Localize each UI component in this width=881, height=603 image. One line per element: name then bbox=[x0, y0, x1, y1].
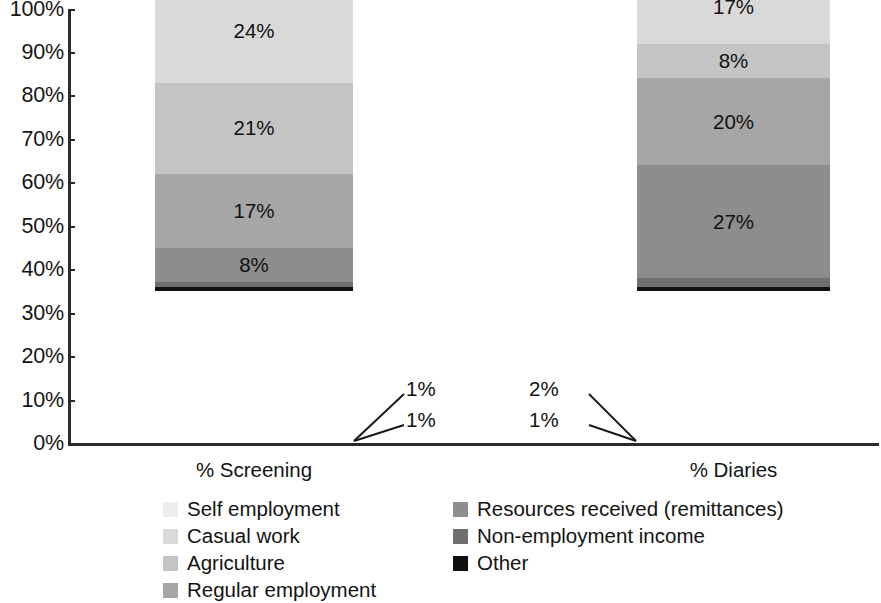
legend-item-other[interactable]: Other bbox=[453, 550, 783, 576]
legend-label: Regular employment bbox=[187, 579, 376, 601]
segment-label: 17% bbox=[637, 0, 830, 17]
legend-column-left: Self employment Casual work Agriculture … bbox=[163, 496, 376, 603]
callout-diaries-upper: 2% bbox=[529, 379, 559, 400]
plot-area: 100% 90% 80% 70% 60% 50% 40% 30% 20% 10%… bbox=[0, 0, 881, 450]
segment-regular-employment[interactable]: 17% bbox=[155, 174, 353, 248]
y-tick-50: 50% bbox=[0, 216, 64, 238]
legend-label: Agriculture bbox=[187, 552, 285, 574]
y-tick-70: 70% bbox=[0, 129, 64, 151]
y-tick-label: 20% bbox=[2, 346, 64, 368]
bar-diaries[interactable]: 26% 17% 8% 20% 27% bbox=[637, 0, 830, 291]
y-axis-ticks: 100% 90% 80% 70% 60% 50% 40% 30% 20% 10%… bbox=[0, 0, 64, 450]
legend-label: Resources received (remittances) bbox=[477, 498, 783, 520]
segment-label: 8% bbox=[155, 255, 353, 276]
y-tick-label: 10% bbox=[2, 390, 64, 412]
y-tick-40: 40% bbox=[0, 259, 64, 281]
y-tick-0: 0% bbox=[0, 433, 64, 455]
segment-label: 17% bbox=[155, 201, 353, 222]
y-tick-90: 90% bbox=[0, 42, 64, 64]
segment-regular-employment[interactable]: 20% bbox=[637, 78, 830, 165]
y-tick-label: 30% bbox=[2, 303, 64, 325]
segment-casual-work[interactable]: 24% bbox=[155, 0, 353, 83]
legend-label: Self employment bbox=[187, 498, 340, 520]
legend-swatch-icon bbox=[163, 529, 178, 544]
segment-resources-received[interactable]: 27% bbox=[637, 165, 830, 278]
y-tick-label: 50% bbox=[2, 216, 64, 238]
stacked-bar-chart: 100% 90% 80% 70% 60% 50% 40% 30% 20% 10%… bbox=[0, 0, 881, 603]
legend-swatch-icon bbox=[453, 556, 468, 571]
callout-screening-upper: 1% bbox=[406, 379, 436, 400]
legend-item-non-employment-income[interactable]: Non-employment income bbox=[453, 523, 783, 549]
y-tick-label: 0% bbox=[2, 433, 64, 455]
y-tick-20: 20% bbox=[0, 346, 64, 368]
y-tick-60: 60% bbox=[0, 172, 64, 194]
segment-label: 21% bbox=[155, 118, 353, 139]
legend-swatch-icon bbox=[163, 583, 178, 598]
legend-column-right: Resources received (remittances) Non-emp… bbox=[453, 496, 783, 577]
segment-agriculture[interactable]: 8% bbox=[637, 44, 830, 79]
segment-agriculture[interactable]: 21% bbox=[155, 83, 353, 174]
segment-other[interactable] bbox=[155, 287, 353, 291]
segment-label: 8% bbox=[637, 51, 830, 72]
legend-item-agriculture[interactable]: Agriculture bbox=[163, 550, 376, 576]
bar-screening[interactable]: 28% 24% 21% 17% 8% bbox=[155, 0, 353, 291]
callout-screening-lower: 1% bbox=[406, 410, 436, 431]
y-tick-label: 40% bbox=[2, 259, 64, 281]
chart-legend: Self employment Casual work Agriculture … bbox=[0, 496, 881, 603]
y-tick-30: 30% bbox=[0, 303, 64, 325]
y-tick-label: 80% bbox=[2, 85, 64, 107]
legend-label: Non-employment income bbox=[477, 525, 705, 547]
legend-swatch-icon bbox=[163, 556, 178, 571]
category-label-screening: % Screening bbox=[155, 459, 353, 481]
y-tick-100: 100% bbox=[0, 0, 64, 21]
y-tick-label: 60% bbox=[2, 172, 64, 194]
segment-label: 20% bbox=[637, 112, 830, 133]
segment-casual-work[interactable]: 17% bbox=[637, 0, 830, 44]
category-label-diaries: % Diaries bbox=[637, 459, 830, 481]
segment-resources-received[interactable]: 8% bbox=[155, 248, 353, 283]
y-axis-line bbox=[68, 10, 71, 445]
segment-other[interactable] bbox=[637, 287, 830, 291]
segment-non-employment-income[interactable] bbox=[637, 278, 830, 287]
legend-swatch-icon bbox=[163, 502, 178, 517]
y-tick-10: 10% bbox=[0, 390, 64, 412]
legend-label: Other bbox=[477, 552, 528, 574]
legend-swatch-icon bbox=[453, 502, 468, 517]
segment-label: 27% bbox=[637, 212, 830, 233]
legend-item-regular-employment[interactable]: Regular employment bbox=[163, 577, 376, 603]
y-tick-label: 90% bbox=[2, 42, 64, 64]
y-tick-80: 80% bbox=[0, 85, 64, 107]
legend-swatch-icon bbox=[453, 529, 468, 544]
y-tick-label: 70% bbox=[2, 129, 64, 151]
legend-item-resources-received[interactable]: Resources received (remittances) bbox=[453, 496, 783, 522]
legend-item-casual-work[interactable]: Casual work bbox=[163, 523, 376, 549]
y-tick-label: 100% bbox=[2, 0, 64, 21]
x-axis-line bbox=[68, 443, 879, 446]
legend-label: Casual work bbox=[187, 525, 300, 547]
callout-diaries-lower: 1% bbox=[529, 410, 559, 431]
segment-label: 24% bbox=[155, 21, 353, 42]
legend-item-self-employment[interactable]: Self employment bbox=[163, 496, 376, 522]
